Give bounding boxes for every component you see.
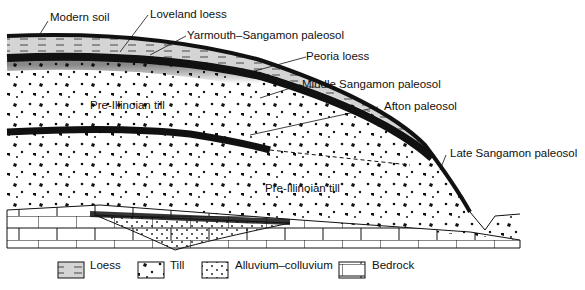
label-pre-illinoian-till-upper: Pre-Illinoian till xyxy=(90,100,165,112)
label-pre-illinoian-till-lower: Pre-Illinoian till xyxy=(265,183,340,195)
legend-loess-label: Loess xyxy=(90,260,121,272)
label-yarmouth-sangamon-paleosol: Yarmouth–Sangamon paleosol xyxy=(187,30,344,42)
label-afton-paleosol: Afton paleosol xyxy=(384,101,457,113)
label-loveland-loess: Loveland loess xyxy=(150,9,227,21)
legend-bedrock-label: Bedrock xyxy=(372,260,414,272)
label-middle-sangamon-paleosol: Middle Sangamon paleosol xyxy=(302,79,441,91)
legend-alluvium-label: Alluvium–colluvium xyxy=(235,260,333,272)
label-peoria-loess: Peoria loess xyxy=(306,51,369,63)
legend-till-label: Till xyxy=(170,260,184,272)
cross-section-drawing xyxy=(0,0,585,290)
label-late-sangamon-paleosol: Late Sangamon paleosol xyxy=(450,148,577,160)
label-modern-soil: Modern soil xyxy=(50,12,109,24)
